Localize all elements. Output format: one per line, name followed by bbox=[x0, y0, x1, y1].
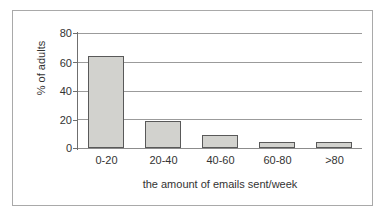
x-tick-label-60-80: 60-80 bbox=[249, 154, 306, 166]
x-tick-label-40-60: 40-60 bbox=[192, 154, 249, 166]
x-axis-title: the amount of emails sent/week bbox=[78, 178, 362, 190]
y-axis-title: % of adults bbox=[35, 13, 47, 123]
bar-over-80[interactable] bbox=[316, 142, 352, 148]
gridline-80 bbox=[78, 33, 362, 34]
x-tick-label-over-80: >80 bbox=[306, 154, 363, 166]
x-tick-label-0-20: 0-20 bbox=[78, 154, 135, 166]
y-tick-label-0: 0 bbox=[28, 143, 72, 154]
bar-20-40[interactable] bbox=[145, 121, 181, 148]
gridline-0-baseline bbox=[78, 148, 362, 149]
bar-40-60[interactable] bbox=[202, 135, 238, 148]
bar-60-80[interactable] bbox=[259, 142, 295, 148]
x-tick-label-20-40: 20-40 bbox=[135, 154, 192, 166]
plot-area bbox=[78, 33, 362, 148]
bar-0-20[interactable] bbox=[88, 56, 124, 148]
